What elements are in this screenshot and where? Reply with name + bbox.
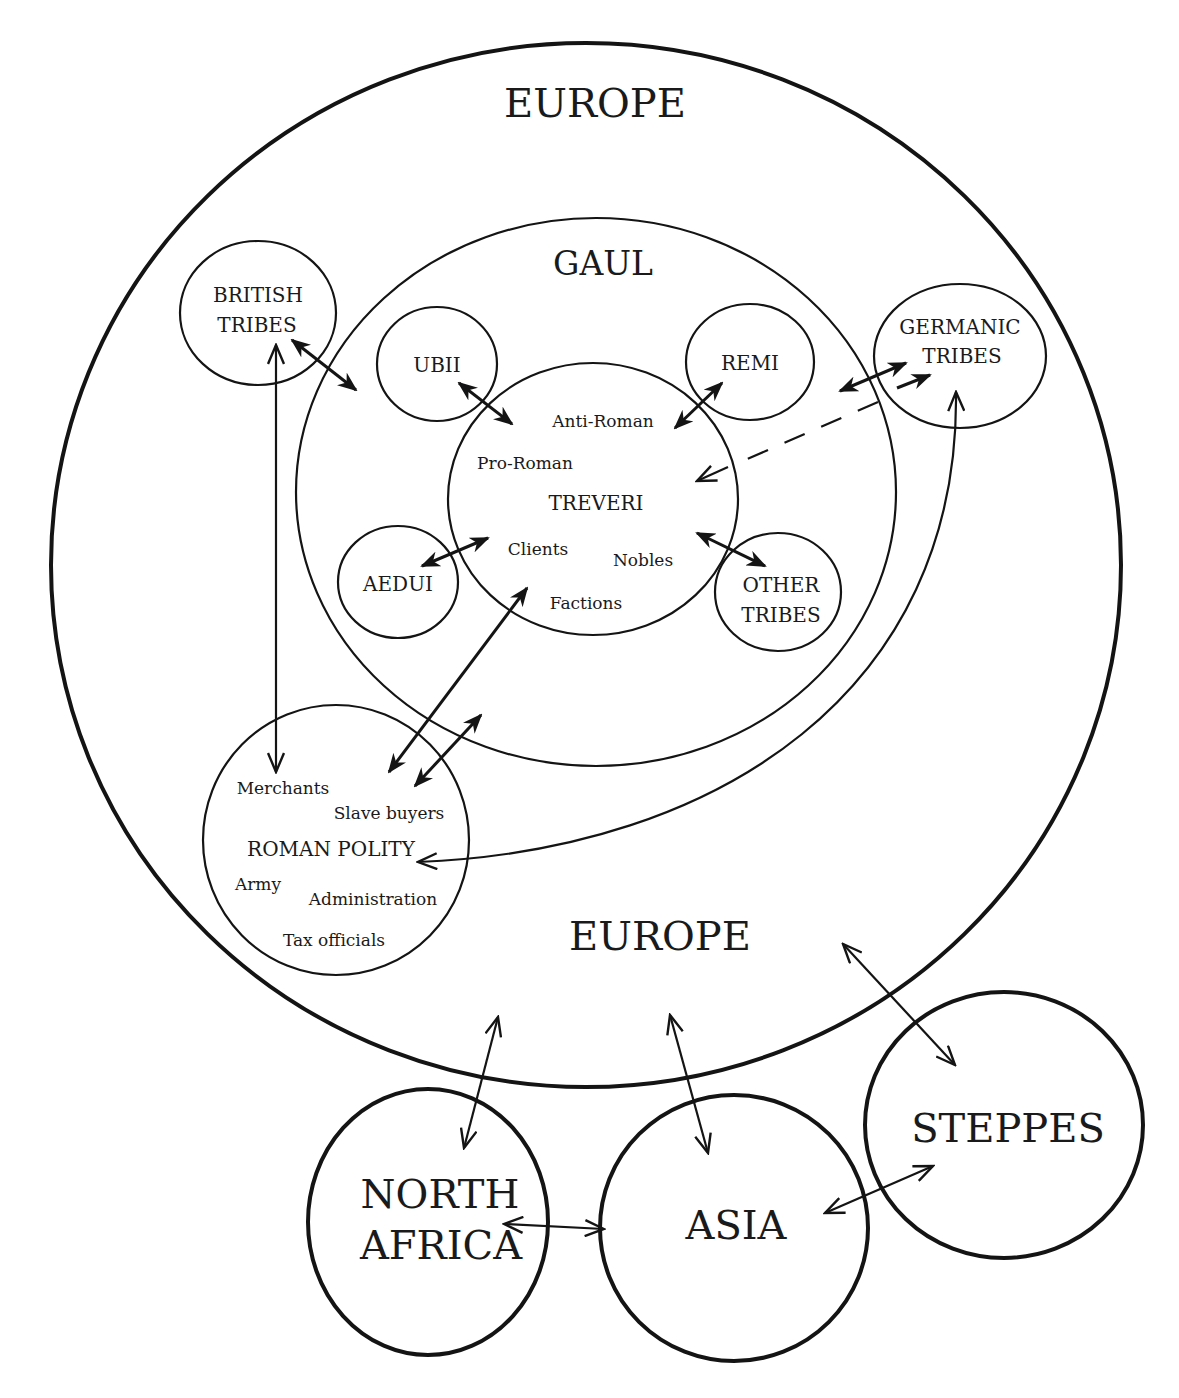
roman-army-label: Army: [234, 874, 282, 894]
germanic-tribes-label-line2: TRIBES: [922, 344, 1001, 368]
roman-administration-label: Administration: [308, 889, 437, 909]
arrow-germanic-treveri-head: [697, 467, 728, 481]
treveri-label: TREVERI: [549, 491, 644, 515]
roman-merchants-label: Merchants: [237, 778, 330, 798]
gaul-label: GAUL: [553, 244, 653, 283]
british-tribes-label-line1: BRITISH: [213, 283, 303, 307]
north-africa-label-line2: AFRICA: [359, 1222, 523, 1268]
roman-polity-label: ROMAN POLITY: [247, 837, 416, 861]
ubii-label: UBII: [413, 353, 460, 377]
steppes-label: STEPPES: [911, 1105, 1105, 1151]
arrow-europe-north-africa: [464, 1017, 498, 1148]
arrow-europe-asia: [670, 1015, 708, 1153]
treveri-nobles-label: Nobles: [613, 550, 673, 570]
arrow-germanic-gaul-second: [897, 375, 930, 388]
treveri-anti-roman-label: Anti-Roman: [551, 411, 654, 431]
remi-label: REMI: [721, 351, 779, 375]
arrow-asia-steppes: [825, 1166, 933, 1213]
europe-label-top: EUROPE: [504, 80, 686, 126]
treveri-pro-roman-label: Pro-Roman: [477, 453, 573, 473]
diagram-canvas: EUROPE EUROPE GAUL BRITISH TRIBES UBII R…: [0, 0, 1179, 1398]
aedui-label: AEDUI: [362, 572, 433, 596]
british-tribes-label-line2: TRIBES: [217, 313, 296, 337]
treveri-factions-label: Factions: [550, 593, 622, 613]
arrow-ubii-treveri: [459, 383, 512, 424]
other-tribes-label-line1: OTHER: [743, 573, 821, 597]
other-tribes-label-line2: TRIBES: [741, 603, 820, 627]
europe-label-bottom: EUROPE: [569, 913, 751, 959]
north-africa-label-line1: NORTH: [361, 1171, 520, 1217]
arrow-germanic-treveri-dashed: [745, 402, 878, 460]
roman-tax-officials-label: Tax officials: [283, 930, 385, 950]
germanic-tribes-label-line1: GERMANIC: [899, 315, 1020, 339]
arrow-british-gaul: [292, 340, 356, 390]
asia-label: ASIA: [685, 1202, 788, 1248]
roman-slave-buyers-label: Slave buyers: [334, 803, 445, 823]
arrow-remi-treveri: [675, 383, 722, 428]
treveri-clients-label: Clients: [508, 539, 568, 559]
arrow-europe-steppes: [843, 944, 955, 1065]
arrow-roman-treveri: [389, 588, 527, 772]
